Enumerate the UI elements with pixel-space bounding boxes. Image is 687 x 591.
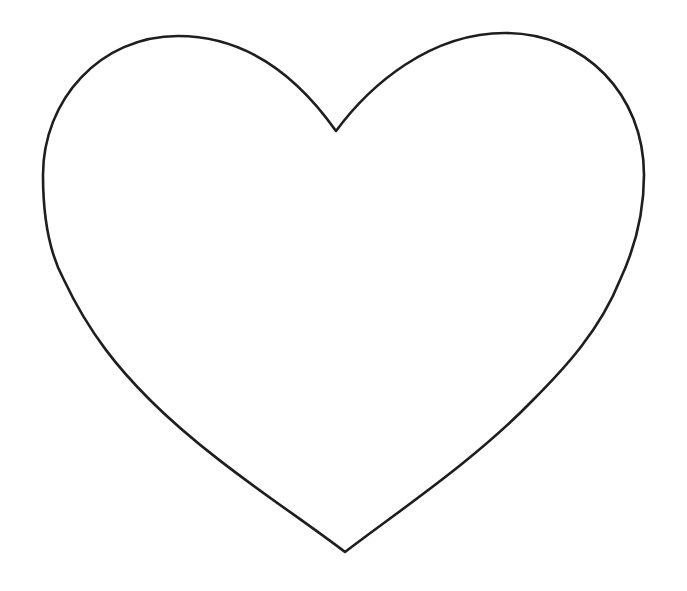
heart-graphic xyxy=(0,0,687,591)
heart-canvas xyxy=(0,0,687,591)
